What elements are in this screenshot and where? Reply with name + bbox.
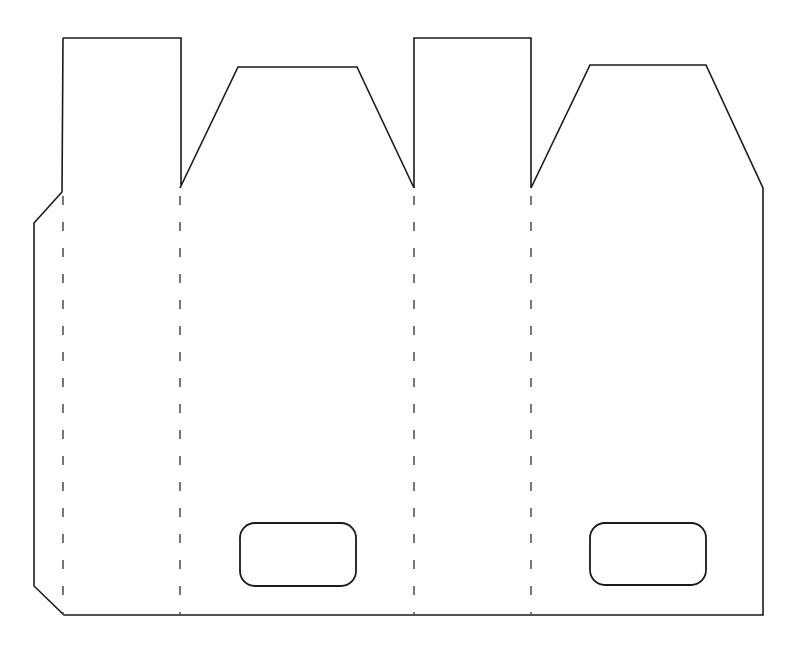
box-template-drawing (0, 0, 794, 645)
canvas-background (0, 0, 794, 645)
die-cut-template-canvas (0, 0, 794, 645)
